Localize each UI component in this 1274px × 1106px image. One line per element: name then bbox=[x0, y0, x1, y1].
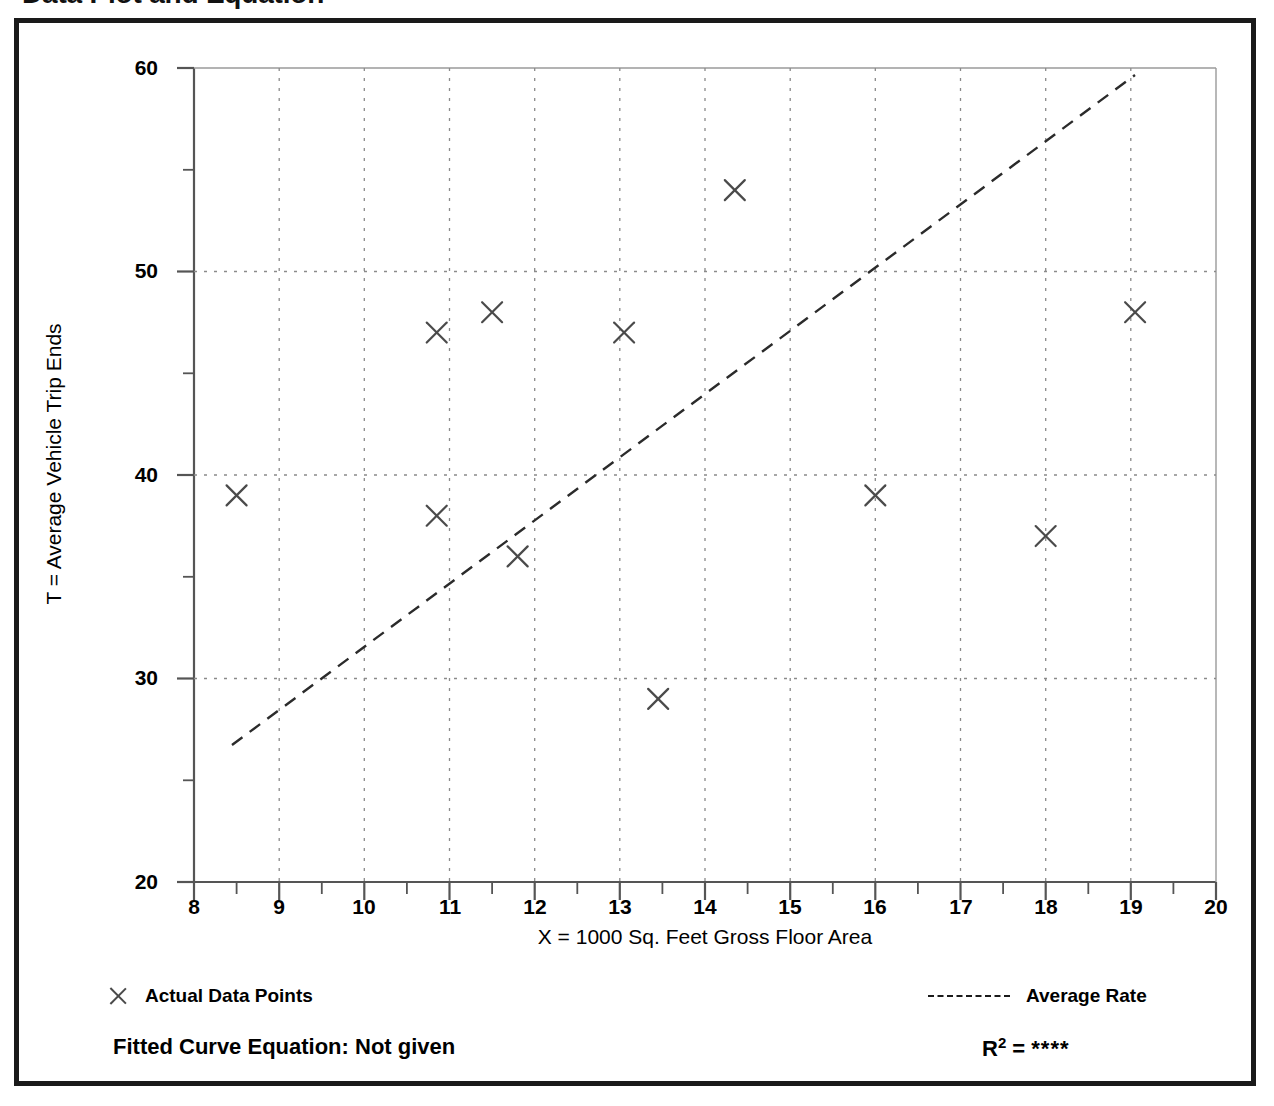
x-tick-label-13: 13 bbox=[597, 896, 643, 917]
equation-footer: Fitted Curve Equation: Not given R2 = **… bbox=[0, 1034, 1274, 1074]
x-tick-label-12: 12 bbox=[512, 896, 558, 917]
y-tick-label-50: 50 bbox=[112, 260, 158, 281]
dashed-line-icon bbox=[928, 995, 1010, 997]
r-squared-exponent: 2 bbox=[998, 1034, 1006, 1051]
x-tick-label-15: 15 bbox=[767, 896, 813, 917]
fitted-curve-equation: Fitted Curve Equation: Not given bbox=[113, 1034, 455, 1060]
x-tick-label-10: 10 bbox=[341, 896, 387, 917]
chart-legend: Actual Data Points Average Rate bbox=[0, 985, 1274, 1019]
x-tick-label-16: 16 bbox=[852, 896, 898, 917]
figure-page: Data Plot and Equation bbox=[0, 0, 1274, 1106]
x-axis-title: X = 1000 Sq. Feet Gross Floor Area bbox=[194, 925, 1216, 949]
x-tick-label-9: 9 bbox=[256, 896, 302, 917]
y-tick-label-40: 40 bbox=[112, 464, 158, 485]
legend-label-average-rate: Average Rate bbox=[1026, 985, 1147, 1007]
legend-item-average-rate: Average Rate bbox=[928, 985, 1147, 1007]
r-squared-stars: **** bbox=[1031, 1036, 1069, 1061]
x-tick-label-18: 18 bbox=[1023, 896, 1069, 917]
x-tick-label-14: 14 bbox=[682, 896, 728, 917]
x-tick-label-17: 17 bbox=[938, 896, 984, 917]
chart-area: 60 50 40 30 20 8 9 10 11 12 13 14 15 16 … bbox=[0, 0, 1274, 1106]
r-squared-symbol: R bbox=[982, 1036, 998, 1061]
r-squared-value: R2 = **** bbox=[982, 1034, 1070, 1062]
r-squared-equals: = bbox=[1006, 1036, 1031, 1061]
x-tick-label-20: 20 bbox=[1193, 896, 1239, 917]
y-tick-label-60: 60 bbox=[112, 57, 158, 78]
average-rate-trendline bbox=[232, 75, 1135, 745]
x-tick-label-8: 8 bbox=[171, 896, 217, 917]
y-axis-title: T = Average Vehicle Trip Ends bbox=[42, 304, 66, 624]
y-axis-major-ticks bbox=[177, 68, 194, 882]
legend-item-actual-data-points: Actual Data Points bbox=[107, 985, 313, 1007]
x-tick-label-11: 11 bbox=[427, 896, 473, 917]
horizontal-gridlines bbox=[194, 272, 1216, 679]
y-tick-label-30: 30 bbox=[112, 667, 158, 688]
x-tick-label-19: 19 bbox=[1108, 896, 1154, 917]
y-tick-label-20: 20 bbox=[112, 871, 158, 892]
legend-label-actual-data-points: Actual Data Points bbox=[145, 985, 313, 1007]
x-marker-icon bbox=[107, 985, 129, 1007]
